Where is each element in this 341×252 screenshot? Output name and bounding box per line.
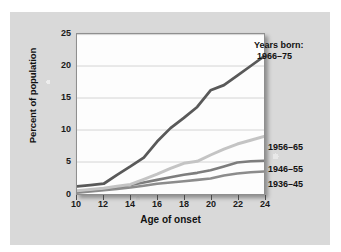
- y-tick-5: 5: [49, 157, 71, 166]
- y-tick-10: 10: [49, 125, 71, 134]
- plot-area: [76, 33, 265, 195]
- y-axis-label: Percent of population: [27, 36, 38, 156]
- x-tick-14: 14: [120, 200, 140, 209]
- legend-title: Years born:: [254, 40, 304, 50]
- series-label-1966-75: 1966–75: [257, 51, 292, 61]
- x-tick-18: 18: [174, 200, 194, 209]
- x-tick-10: 10: [66, 200, 86, 209]
- series-label-1946-55: 1946–55: [268, 164, 303, 174]
- series-label-1956-65: 1956–65: [268, 142, 303, 152]
- x-tick-22: 22: [228, 200, 248, 209]
- x-tick-12: 12: [93, 200, 113, 209]
- x-axis-label: Age of onset: [76, 214, 265, 225]
- x-tick-16: 16: [147, 200, 167, 209]
- series-label-1936-45: 1936–45: [268, 179, 303, 189]
- x-tick-24: 24: [255, 200, 275, 209]
- gridlines: [77, 35, 264, 162]
- y-tick-20: 20: [49, 61, 71, 70]
- y-tick-25: 25: [49, 29, 71, 38]
- y-tick-0: 0: [49, 190, 71, 199]
- y-tick-15: 15: [49, 93, 71, 102]
- x-tick-20: 20: [201, 200, 221, 209]
- chart-svg: [77, 34, 264, 194]
- series-line-1966-75: [77, 56, 264, 186]
- chart-figure: 25 20 15 10 5 0 Percent of population: [10, 12, 330, 245]
